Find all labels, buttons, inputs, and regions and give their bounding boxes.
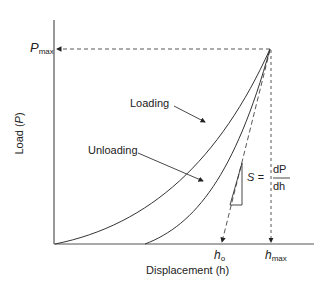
loading-label: Loading xyxy=(130,98,169,109)
unloading-label: Unloading xyxy=(88,145,138,156)
p-max-label: Pmax xyxy=(30,41,54,54)
diagram-canvas: Pmax Load (P) Loading Unloading S = dP d… xyxy=(0,0,329,284)
stiffness-denominator: dh xyxy=(273,181,285,192)
slope-triangle xyxy=(230,163,242,205)
stiffness-lhs: S = xyxy=(247,172,264,183)
unloading-curve xyxy=(145,49,270,244)
h-max-label: hmax xyxy=(265,249,287,261)
stiffness-numerator: dP xyxy=(273,164,286,175)
h-o-label: ho xyxy=(214,249,225,261)
loading-leader-arrow xyxy=(174,106,205,122)
tangent-dashed-line xyxy=(222,50,270,242)
x-axis-label: Displacement (h) xyxy=(146,265,229,276)
y-axis-label: Load (P) xyxy=(14,112,25,154)
